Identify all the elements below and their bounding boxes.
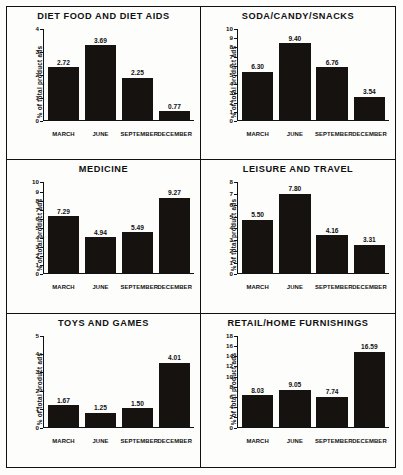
- bar-value-label: 5.49: [131, 224, 144, 231]
- x-axis-line: [43, 427, 194, 428]
- plot-area: % of total product ads0123456789106.309.…: [203, 23, 391, 141]
- x-tick-label: DECEMBER: [157, 438, 191, 444]
- bar-series: 7.294.945.499.27: [45, 182, 193, 273]
- bar-slot: 1.67: [48, 336, 79, 427]
- bar: [242, 395, 273, 427]
- chart-panel: LEISURE AND TRAVEL% of total product ads…: [201, 160, 395, 313]
- y-tick-label: 8: [230, 384, 237, 390]
- x-tick-label: DECEMBER: [157, 131, 191, 137]
- y-tick-label: 3: [36, 369, 43, 375]
- y-tick-label: 0: [230, 271, 237, 277]
- x-axis-labels: MARCHJUNESEPTEMBERDECEMBER: [239, 284, 388, 290]
- bar: [279, 390, 310, 427]
- bar: [354, 245, 385, 274]
- panel-title: SODA/CANDY/SNACKS: [201, 7, 395, 23]
- bar: [159, 111, 190, 120]
- y-tick-label: 0: [230, 118, 237, 124]
- bar-value-label: 3.69: [94, 37, 107, 44]
- bar-value-label: 8.03: [251, 387, 264, 394]
- figure-sheet: DIET FOOD AND DIET AIDS% of total produc…: [0, 0, 403, 475]
- y-axis-ticks: 012345678910: [25, 182, 43, 274]
- x-tick-label: DECEMBER: [352, 131, 386, 137]
- x-axis-labels: MARCHJUNESEPTEMBERDECEMBER: [45, 284, 193, 290]
- bar-value-label: 9.05: [288, 381, 301, 388]
- y-tick-label: 1: [230, 109, 237, 115]
- bar: [48, 405, 79, 426]
- y-tick-label: 1: [36, 262, 43, 268]
- bar-value-label: 6.30: [251, 63, 264, 70]
- bar-value-label: 7.74: [326, 388, 339, 395]
- chart-panel: SODA/CANDY/SNACKS% of total product ads0…: [201, 7, 395, 160]
- y-tick-label: 2: [230, 414, 237, 420]
- bar-slot: 9.40: [279, 29, 310, 120]
- x-tick-label: MARCH: [240, 131, 274, 137]
- x-tick-label: SEPTEMBER: [315, 131, 349, 137]
- panel-title: RETAIL/HOME FURNISHINGS: [201, 314, 395, 330]
- x-tick-label: SEPTEMBER: [120, 131, 154, 137]
- y-tick-label: 0: [36, 271, 43, 277]
- bar-value-label: 6.76: [326, 59, 339, 66]
- y-tick-label: 2: [36, 72, 43, 78]
- bar-value-label: 4.01: [168, 354, 181, 361]
- y-tick-label: 1: [230, 260, 237, 266]
- y-tick-label: 8: [230, 179, 237, 185]
- y-tick-label: 3: [36, 244, 43, 250]
- y-tick-label: 6: [230, 202, 237, 208]
- y-tick-label: 0: [36, 425, 43, 431]
- bar-slot: 2.72: [48, 29, 79, 120]
- y-tick-label: 7: [230, 54, 237, 60]
- x-tick-label: MARCH: [46, 131, 80, 137]
- y-tick-label: 9: [230, 35, 237, 41]
- y-tick-label: 6: [36, 216, 43, 222]
- x-tick-label: JUNE: [83, 131, 117, 137]
- bar-value-label: 3.54: [363, 88, 376, 95]
- x-tick-label: JUNE: [278, 284, 312, 290]
- x-axis-line: [43, 120, 194, 121]
- bar: [242, 220, 273, 274]
- chart-grid: DIET FOOD AND DIET AIDS% of total produc…: [6, 6, 396, 468]
- bar-value-label: 9.27: [168, 189, 181, 196]
- chart-panel: RETAIL/HOME FURNISHINGS% of total produc…: [201, 314, 395, 467]
- bar: [48, 67, 79, 120]
- panel-title: TOYS AND GAMES: [7, 314, 200, 330]
- y-tick-label: 4: [36, 235, 43, 241]
- bar-value-label: 5.50: [251, 211, 264, 218]
- y-tick-label: 3: [230, 237, 237, 243]
- x-tick-label: JUNE: [278, 438, 312, 444]
- bar-value-label: 9.40: [288, 35, 301, 42]
- bar-value-label: 16.59: [361, 343, 378, 350]
- bar-slot: 2.25: [122, 29, 153, 120]
- plot-area: % of total product ads0123451.671.251.50…: [9, 330, 196, 448]
- chart-panel: MEDICINE% of total product ads0123456789…: [7, 160, 201, 313]
- bar-value-label: 4.16: [326, 227, 339, 234]
- bar: [316, 397, 347, 427]
- bar-slot: 16.59: [354, 336, 385, 427]
- bar-series: 6.309.406.763.54: [239, 29, 388, 120]
- plot-area: % of total product ads0246810121416188.0…: [203, 330, 391, 448]
- bar-slot: 7.80: [279, 182, 310, 273]
- y-tick-label: 8: [230, 44, 237, 50]
- bar-value-label: 2.25: [131, 69, 144, 76]
- bar: [354, 97, 385, 120]
- bar: [48, 216, 79, 273]
- bar-value-label: 1.67: [57, 397, 70, 404]
- bar: [242, 72, 273, 120]
- y-tick-label: 5: [36, 333, 43, 339]
- bar: [279, 194, 310, 274]
- y-tick-label: 5: [230, 72, 237, 78]
- bar-slot: 3.69: [85, 29, 116, 120]
- y-tick-label: 1: [36, 406, 43, 412]
- y-tick-label: 3: [230, 90, 237, 96]
- y-tick-label: 0: [36, 118, 43, 124]
- bar-series: 8.039.057.7416.59: [239, 336, 388, 427]
- bar-slot: 9.27: [159, 182, 190, 273]
- y-tick-label: 10: [226, 26, 237, 32]
- bar-slot: 8.03: [242, 336, 273, 427]
- x-tick-label: MARCH: [240, 438, 274, 444]
- x-tick-label: DECEMBER: [157, 284, 191, 290]
- x-axis-labels: MARCHJUNESEPTEMBERDECEMBER: [45, 438, 193, 444]
- x-tick-label: MARCH: [46, 438, 80, 444]
- y-axis-line: [237, 336, 238, 428]
- x-tick-label: SEPTEMBER: [120, 284, 154, 290]
- bar-slot: 3.31: [354, 182, 385, 273]
